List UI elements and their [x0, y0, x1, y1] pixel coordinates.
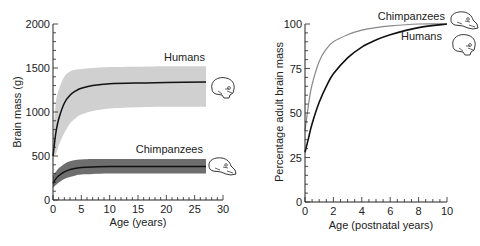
x-tick-label: 30	[217, 203, 229, 215]
y-tick-label: 1500	[26, 62, 50, 74]
series-label-chimpanzees: Chimpanzees	[378, 10, 446, 22]
y-tick-label: 50	[290, 107, 302, 119]
x-tick-label: 2	[330, 205, 336, 217]
axes: 02550751000246810	[284, 18, 453, 217]
brain-mass-chart: 0500100015002000051015202530 Age (years)…	[11, 18, 236, 228]
band-chimpanzees	[53, 159, 206, 188]
series-label-humans: Humans	[164, 51, 205, 63]
human-skull-icon	[453, 35, 476, 55]
y-tick-label: 100	[284, 18, 302, 30]
y-tick-label: 25	[290, 152, 302, 164]
human-skull-icon	[212, 78, 235, 98]
x-tick-label: 10	[441, 205, 453, 217]
x-axis-title: Age (postnatal years)	[329, 219, 434, 231]
y-tick-label: 1000	[26, 106, 50, 118]
data-lines	[305, 24, 447, 152]
x-tick-label: 20	[160, 203, 172, 215]
y-axis-title: Percentage adult brain mass	[273, 41, 285, 182]
series-label-humans: Humans	[401, 30, 442, 42]
x-tick-label: 0	[302, 205, 308, 217]
series-label-chimpanzees: Chimpanzees	[136, 143, 204, 155]
figure-canvas: 0500100015002000051015202530 Age (years)…	[0, 0, 480, 246]
chimpanzee-skull-icon	[209, 158, 236, 175]
percentage-brain-mass-chart: 02550751000246810 Age (postnatal years) …	[273, 10, 478, 231]
x-axis-title: Age (years)	[110, 216, 167, 228]
x-tick-label: 6	[387, 205, 393, 217]
y-tick-label: 500	[32, 150, 50, 162]
x-tick-label: 0	[50, 203, 56, 215]
variance-bands	[53, 66, 206, 188]
x-tick-label: 15	[132, 203, 144, 215]
x-tick-label: 5	[78, 203, 84, 215]
x-tick-label: 8	[416, 205, 422, 217]
y-tick-label: 2000	[26, 18, 50, 30]
chimpanzee-skull-icon	[451, 12, 478, 29]
x-tick-label: 10	[104, 203, 116, 215]
y-axis-title: Brain mass (g)	[11, 76, 23, 148]
line-humans	[305, 24, 447, 152]
x-tick-label: 4	[359, 205, 365, 217]
x-tick-label: 25	[189, 203, 201, 215]
y-tick-label: 75	[290, 63, 302, 75]
